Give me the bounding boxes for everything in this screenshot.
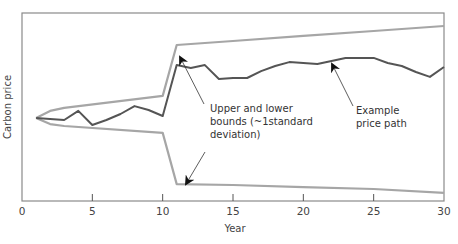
x-tick-label: 5 [89, 205, 96, 217]
price-path-annotation-line1: Example [356, 105, 399, 116]
bounds-annotation-line3: deviation) [210, 129, 260, 140]
x-axis-tick-labels: 051015202530 [19, 205, 451, 217]
x-tick-label: 30 [437, 205, 450, 217]
x-tick-label: 20 [297, 205, 310, 217]
x-axis-title: Year [223, 223, 246, 234]
arrow-to-price-path [332, 64, 353, 106]
price-path-annotation-line2: price path [356, 118, 407, 129]
arrow-to-lower-bound [186, 152, 205, 184]
x-tick-label: 25 [367, 205, 380, 217]
y-axis-title: Carbon price [2, 75, 13, 139]
x-tick-label: 15 [226, 205, 239, 217]
price-path-annotation: Example price path [356, 105, 407, 129]
x-tick-label: 10 [156, 205, 169, 217]
bounds-annotation-line2: bounds (~1standard [210, 116, 313, 127]
bounds-annotation: Upper and lower bounds (~1standard devia… [210, 103, 316, 140]
x-axis-ticks [92, 194, 373, 201]
x-tick-label: 0 [19, 205, 26, 217]
carbon-price-chart: Upper and lower bounds (~1standard devia… [0, 0, 458, 244]
bounds-annotation-line1: Upper and lower [210, 103, 294, 114]
arrow-to-upper-bound [180, 57, 204, 104]
